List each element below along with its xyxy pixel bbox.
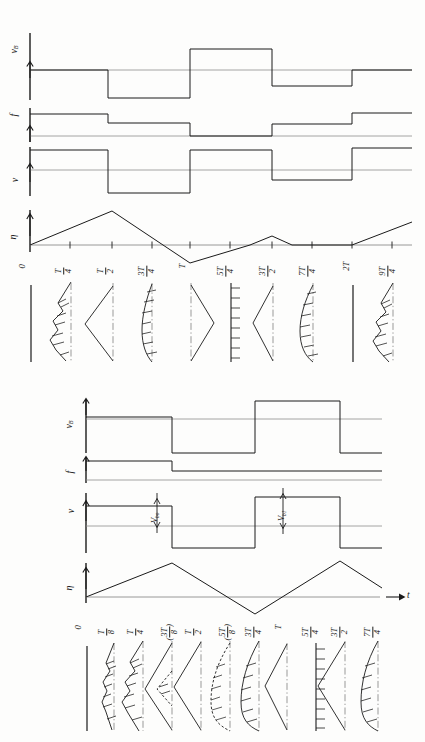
profile-b-T-2 [174, 641, 201, 731]
panel-top-svg [0, 0, 425, 371]
trace-f-top [27, 108, 412, 142]
profile-b-5T-4 [316, 643, 325, 731]
axis-label-f-bottom: f [65, 471, 75, 474]
tick-label: 3T2 [258, 266, 276, 277]
axis-label-v-top: v [10, 178, 20, 182]
trace-vb-bottom [83, 399, 382, 454]
profile-T-4 [50, 282, 71, 362]
tick-label: T4 [126, 629, 144, 636]
annotation-vbo: Vbo [150, 513, 160, 523]
profile-5T-4 [231, 283, 240, 362]
trace-vb-top [27, 33, 412, 100]
tick-label: (3T8) [160, 624, 178, 641]
tick-label: T [178, 264, 187, 269]
time-axis-arrow [386, 594, 406, 601]
axis-label-eta-bottom: η [64, 586, 74, 591]
tick-label: 0 [74, 625, 83, 629]
tick-label: 7T4 [298, 266, 316, 277]
axis-label-eta-top: η [8, 235, 18, 240]
tick-label: 5T4 [301, 627, 319, 638]
profile-b-3T-4 [241, 641, 259, 731]
figure-canvas: vB f v η 0T4T23T4T5T43T27T42T9T4 [0, 0, 425, 742]
profile-b-5T-8 [211, 641, 230, 731]
waveform-panel-top: vB f v η 0T4T23T4T5T43T27T42T9T4 [0, 0, 425, 371]
trace-eta-bottom [83, 561, 406, 614]
tick-label: T2 [96, 268, 114, 275]
tick-label: 7T4 [363, 627, 381, 638]
tick-label: T [274, 625, 283, 630]
profile-3T-4 [142, 283, 157, 362]
profile-T [191, 283, 214, 362]
axis-label-vb-top: vB [9, 45, 20, 53]
trace-f-bottom [83, 457, 382, 484]
profile-b-7T-4 [361, 641, 378, 731]
profile-row-bottom [87, 641, 378, 731]
tick-label: 3T4 [244, 627, 262, 638]
trace-v-top [27, 147, 412, 196]
profile-b-3T-2 [318, 641, 345, 731]
profile-3T-2 [253, 283, 273, 362]
tick-label: T2 [184, 629, 202, 636]
axis-label-f-top: f [9, 114, 19, 117]
annotation-vb1: Vb1 [277, 511, 287, 521]
tick-label: 5T4 [216, 266, 234, 277]
tick-label: T4 [54, 268, 72, 275]
axis-label-vb-bottom: vB [64, 420, 75, 428]
profile-row-top [31, 282, 393, 362]
tick-label: 2T [342, 262, 351, 271]
tick-label: T8 [97, 629, 115, 636]
profile-b-T [265, 643, 287, 731]
trace-eta-top [27, 210, 412, 263]
trace-v-bottom [83, 488, 382, 553]
tick-label: 3T2 [330, 627, 348, 638]
profile-7T-4 [300, 283, 318, 362]
profile-9T-4 [373, 283, 393, 362]
tick-label: 9T4 [378, 266, 396, 277]
profile-b-T-8 [102, 643, 116, 731]
tick-label: 0 [18, 264, 27, 268]
tick-label: (5T8) [218, 624, 236, 641]
waveform-panel-bottom: vB f v η Vbo Vb1 t 0T8T4(3T8)T2(5T8)3T4T… [0, 371, 425, 742]
axis-label-t: t [407, 590, 410, 600]
profile-b-T-4 [122, 641, 143, 731]
axis-label-v-bottom: v [66, 509, 76, 513]
profile-b-3T-8 [145, 641, 172, 731]
profile-T-2 [85, 283, 113, 362]
tick-label: 3T4 [137, 266, 155, 277]
